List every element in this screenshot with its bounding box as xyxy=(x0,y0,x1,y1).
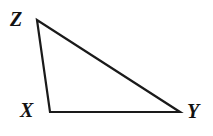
vertex-label-y: Y xyxy=(187,101,199,121)
vertex-label-z: Z xyxy=(10,9,22,29)
geometry-figure: Z X Y xyxy=(0,0,213,136)
vertex-label-x: X xyxy=(20,100,33,120)
triangle-xyz-outline xyxy=(37,20,180,112)
